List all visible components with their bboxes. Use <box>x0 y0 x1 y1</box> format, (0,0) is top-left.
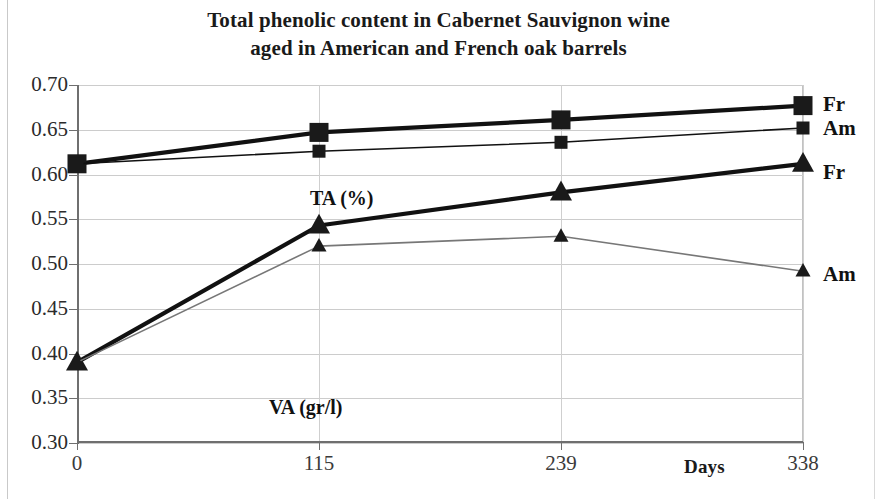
x-axis-tick-label: 0 <box>32 452 122 474</box>
data-point-square <box>555 136 568 149</box>
y-axis-tick-label: 0.55 <box>4 208 68 229</box>
annotation-va: VA (gr/l) <box>269 396 343 419</box>
data-point-square <box>794 96 813 115</box>
data-point-triangle <box>792 152 814 172</box>
data-point-square <box>71 157 84 170</box>
series-ta-am <box>71 122 810 171</box>
data-point-triangle <box>554 228 569 242</box>
series-end-label-va-fr: Fr <box>823 160 845 185</box>
x-axis-tick <box>319 442 320 450</box>
x-axis-tick <box>77 442 78 450</box>
x-axis-tick <box>803 442 804 450</box>
y-axis-tick-label: 0.30 <box>4 432 68 453</box>
data-point-square <box>552 110 571 129</box>
series-line <box>77 128 803 164</box>
chart-title-line-2: aged in American and French oak barrels <box>0 34 877 62</box>
chart-title-line-1: Total phenolic content in Cabernet Sauvi… <box>0 6 877 34</box>
y-axis-tick-label: 0.50 <box>4 253 68 274</box>
y-axis-tick-label: 0.70 <box>4 74 68 95</box>
y-axis-tick-label: 0.35 <box>4 387 68 408</box>
series-line <box>77 164 803 363</box>
series-end-label-va-am: Am <box>823 262 856 287</box>
series-end-label-ta-fr: Fr <box>823 92 845 117</box>
y-axis-tick-labels: 0.700.650.600.550.500.450.400.350.30 <box>0 85 70 443</box>
data-point-square <box>313 145 326 158</box>
x-axis-title: Days <box>684 456 725 478</box>
data-point-square <box>797 122 810 135</box>
chart-title: Total phenolic content in Cabernet Sauvi… <box>0 6 877 62</box>
annotation-ta: TA (%) <box>310 187 374 210</box>
x-axis-tick <box>561 442 562 450</box>
y-axis-tick-label: 0.45 <box>4 298 68 319</box>
series-end-label-ta-am: Am <box>823 116 856 141</box>
gridline <box>77 443 803 444</box>
chart-figure: Total phenolic content in Cabernet Sauvi… <box>0 0 877 499</box>
series-vagrl-fr <box>66 152 814 370</box>
y-axis-tick-label: 0.60 <box>4 164 68 185</box>
x-axis-tick-label: 338 <box>758 452 848 474</box>
data-point-triangle <box>312 238 327 252</box>
series-plot <box>77 85 803 443</box>
series-vagrl-am <box>70 228 811 368</box>
plot-area: TA (%) VA (gr/l) <box>77 85 803 443</box>
x-axis-tick-label: 239 <box>516 452 606 474</box>
x-axis-tick-label: 115 <box>274 452 364 474</box>
y-axis-tick-label: 0.40 <box>4 343 68 364</box>
y-axis-tick-label: 0.65 <box>4 119 68 140</box>
data-point-square <box>310 123 329 142</box>
